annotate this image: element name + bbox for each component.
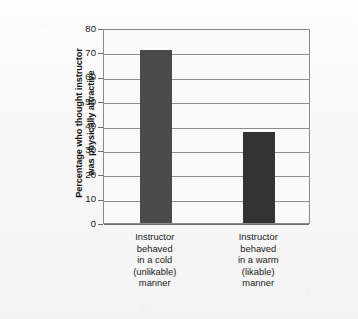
x-category-1-line-4: (unlikable) bbox=[100, 266, 210, 278]
gridline-30 bbox=[104, 152, 309, 153]
y-tick-label-40: 40 bbox=[72, 121, 96, 131]
bar-1 bbox=[140, 50, 172, 223]
y-tick-label-10: 10 bbox=[72, 194, 96, 204]
x-category-1-line-3: in a cold bbox=[100, 254, 210, 266]
plot-area bbox=[103, 29, 310, 224]
gridline-70 bbox=[104, 54, 309, 55]
gridline-20 bbox=[104, 176, 309, 177]
x-category-2-line-5: manner bbox=[203, 277, 313, 289]
y-tick-label-70: 70 bbox=[72, 48, 96, 58]
y-tick-label-20: 20 bbox=[72, 170, 96, 180]
x-category-2-line-3: in a warm bbox=[203, 254, 313, 266]
x-category-2-line-4: (likable) bbox=[203, 266, 313, 278]
y-tick-label-80: 80 bbox=[72, 24, 96, 34]
y-tick-label-0: 0 bbox=[72, 219, 96, 229]
x-category-1-line-2: behaved bbox=[100, 243, 210, 255]
y-tick-mark-0 bbox=[98, 224, 103, 225]
bar-2 bbox=[243, 132, 275, 223]
y-tick-label-60: 60 bbox=[72, 72, 96, 82]
x-category-label-2: Instructorbehavedin a warm(likable)manne… bbox=[203, 231, 313, 289]
y-tick-label-50: 50 bbox=[72, 97, 96, 107]
x-category-label-1: Instructorbehavedin a cold(unlikable)man… bbox=[100, 231, 210, 289]
x-category-1-line-5: manner bbox=[100, 277, 210, 289]
x-category-1-line-1: Instructor bbox=[100, 231, 210, 243]
x-category-2-line-1: Instructor bbox=[203, 231, 313, 243]
gridline-0 bbox=[104, 224, 309, 225]
gridline-10 bbox=[104, 201, 309, 202]
figure-canvas: Percentage who thought instructor was ph… bbox=[0, 0, 358, 319]
gridline-50 bbox=[104, 103, 309, 104]
gridline-40 bbox=[104, 128, 309, 129]
x-category-2-line-2: behaved bbox=[203, 243, 313, 255]
gridline-60 bbox=[104, 79, 309, 80]
y-tick-label-30: 30 bbox=[72, 145, 96, 155]
